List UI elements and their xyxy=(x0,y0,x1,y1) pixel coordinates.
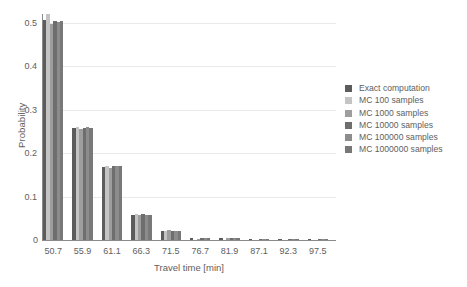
legend-swatch-icon xyxy=(345,134,352,141)
y-axis-title: Probability xyxy=(16,82,27,96)
bar xyxy=(190,238,193,240)
legend-item[interactable]: MC 1000000 samples xyxy=(345,145,443,154)
y-axis-tick-label: 0.3 xyxy=(24,105,37,115)
bar-chart-figure: Probability 0 0.10.20.30.40.5 50.755.961… xyxy=(0,0,467,287)
bar-group xyxy=(131,13,151,240)
bar xyxy=(207,238,210,240)
bar xyxy=(89,128,92,240)
x-axis-tick-label: 55.9 xyxy=(74,246,92,256)
y-axis-tick-label: 0.1 xyxy=(24,192,37,202)
y-axis-tick-zero: 0 xyxy=(33,235,38,245)
x-axis-tick-label: 87.1 xyxy=(250,246,268,256)
legend-swatch-icon xyxy=(345,146,352,153)
bar xyxy=(148,215,151,240)
legend-item-label: MC 1000 samples xyxy=(359,109,428,118)
bar-group xyxy=(43,13,63,240)
bar-group xyxy=(249,13,269,240)
legend-item-label: MC 10000 samples xyxy=(359,121,433,130)
bar xyxy=(219,238,222,240)
bar-group xyxy=(278,13,298,240)
legend-swatch-icon xyxy=(345,110,352,117)
x-axis-tick-label: 97.5 xyxy=(309,246,327,256)
plot-area: 0.10.20.30.40.5 50.755.961.166.371.576.7… xyxy=(42,14,336,241)
legend-item-label: Exact computation xyxy=(359,84,430,93)
bar xyxy=(308,239,311,240)
x-axis-line xyxy=(42,240,336,241)
x-axis-tick-label: 50.7 xyxy=(44,246,62,256)
bar xyxy=(178,231,181,240)
legend-item[interactable]: Exact computation xyxy=(345,84,443,93)
bar xyxy=(60,21,63,240)
bar xyxy=(278,239,281,240)
x-axis-tick-label: 76.7 xyxy=(191,246,209,256)
legend-item-label: MC 100000 samples xyxy=(359,133,438,142)
legend-swatch-icon xyxy=(345,85,352,92)
legend-item-label: MC 1000000 samples xyxy=(359,145,443,154)
legend-item-label: MC 100 samples xyxy=(359,96,423,105)
bar-group xyxy=(190,13,210,240)
legend-swatch-icon xyxy=(345,97,352,104)
bar-group xyxy=(102,13,122,240)
bar-group xyxy=(308,13,328,240)
x-axis-title: Travel time [min] xyxy=(42,262,336,273)
y-axis-tick-label: 0.4 xyxy=(24,61,37,71)
x-axis-tick-label: 81.9 xyxy=(221,246,239,256)
chart-legend: Exact computationMC 100 samplesMC 1000 s… xyxy=(345,84,443,154)
bar-group xyxy=(219,13,239,240)
y-axis-tick-label: 0.5 xyxy=(24,18,37,28)
y-axis-tick-label: 0.2 xyxy=(24,148,37,158)
legend-item[interactable]: MC 100 samples xyxy=(345,96,443,105)
legend-swatch-icon xyxy=(345,122,352,129)
legend-item[interactable]: MC 10000 samples xyxy=(345,121,443,130)
bar xyxy=(325,239,328,240)
x-axis-tick-label: 66.3 xyxy=(133,246,151,256)
legend-item[interactable]: MC 100000 samples xyxy=(345,133,443,142)
bar xyxy=(295,239,298,240)
x-axis-tick-label: 61.1 xyxy=(103,246,121,256)
x-axis-tick-label: 71.5 xyxy=(162,246,180,256)
bar-group xyxy=(72,13,92,240)
x-axis-tick-label: 92.3 xyxy=(280,246,298,256)
bar-group xyxy=(161,13,181,240)
bar xyxy=(119,166,122,240)
bar xyxy=(236,238,239,240)
bar xyxy=(266,239,269,240)
bar xyxy=(249,239,252,240)
legend-item[interactable]: MC 1000 samples xyxy=(345,109,443,118)
